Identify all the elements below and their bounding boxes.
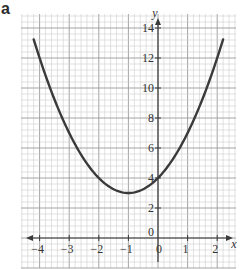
x-tick-label: 2 [212,242,218,256]
x-tick-label: −1 [120,242,133,256]
grid [21,14,236,268]
y-tick-label: 14 [142,21,154,35]
y-tick-label: 6 [148,141,154,155]
axes [26,18,233,262]
x-tick-label: 1 [183,242,189,256]
chart: −4−3−2−101202468101214xy [0,0,241,269]
x-axis-left-arrow [26,235,33,241]
x-tick-label: −4 [31,242,44,256]
y-tick-label: 2 [148,201,154,215]
y-tick-label: 8 [148,111,154,125]
x-axis-label: x [230,237,237,251]
x-tick-label: −2 [90,242,103,256]
y-tick-label: 10 [142,81,154,95]
x-tick-label: −3 [61,242,74,256]
y-tick-label: 12 [142,51,154,65]
x-tick-label: 0 [156,242,162,256]
y-tick-label: 0 [148,225,154,239]
y-axis-label: y [151,6,158,20]
